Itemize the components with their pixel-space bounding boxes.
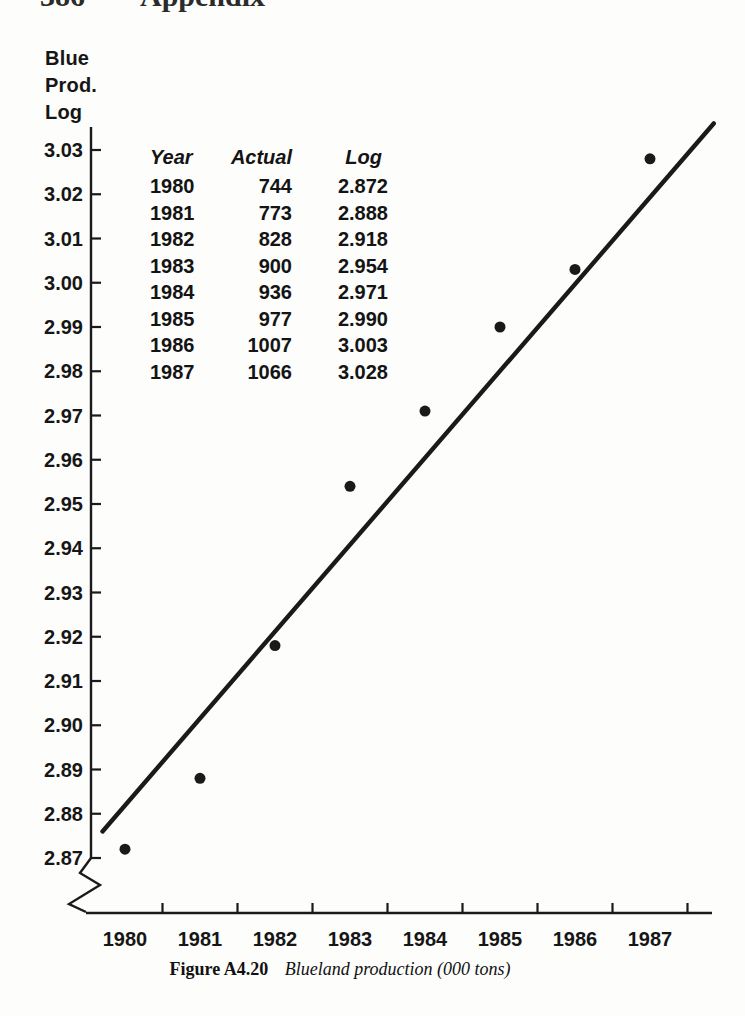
y-tick-label: 2.95	[44, 493, 83, 515]
x-year-label: 1980	[103, 928, 148, 950]
table-header-cell: Log	[292, 146, 388, 173]
y-tick-label: 2.92	[44, 626, 83, 648]
table-cell: 1066	[230, 359, 292, 386]
x-year-label: 1985	[478, 928, 523, 950]
table-cell: 1983	[150, 253, 230, 280]
table-cell: 1980	[150, 173, 230, 200]
data-point	[495, 322, 506, 333]
y-tick-label: 3.03	[44, 139, 83, 161]
table-header-row: YearActualLog	[150, 146, 388, 173]
y-tick-label: 2.87	[44, 847, 83, 869]
table-row: 19839002.954	[150, 253, 388, 280]
table-cell: 1007	[230, 332, 292, 359]
data-point	[270, 640, 281, 651]
figure-caption: Figure A4.20 Blueland production (000 to…	[60, 959, 620, 980]
table-row: 19849362.971	[150, 279, 388, 306]
table-cell: 1985	[150, 306, 230, 333]
table-cell: 2.971	[292, 279, 388, 306]
y-tick-label: 3.02	[44, 183, 83, 205]
y-tick-label: 2.91	[44, 670, 83, 692]
x-year-label: 1981	[178, 928, 223, 950]
y-tick-label: 3.01	[44, 228, 83, 250]
data-point	[420, 406, 431, 417]
figure-label: Figure A4.20	[170, 959, 269, 979]
x-year-label: 1982	[253, 928, 298, 950]
y-tick-label: 3.00	[44, 272, 83, 294]
table-cell: 2.954	[292, 253, 388, 280]
table-cell: 1981	[150, 200, 230, 227]
data-point	[570, 264, 581, 275]
data-point	[195, 773, 206, 784]
table-cell: 2.888	[292, 200, 388, 227]
table-cell: 2.990	[292, 306, 388, 333]
table-cell: 828	[230, 226, 292, 253]
table-cell: 1984	[150, 279, 230, 306]
table-cell: 1986	[150, 332, 230, 359]
table-cell: 2.918	[292, 226, 388, 253]
y-tick-label: 2.93	[44, 582, 83, 604]
data-point	[345, 481, 356, 492]
table-row: 19828282.918	[150, 226, 388, 253]
y-tick-label: 2.94	[44, 537, 84, 559]
y-tick-label: 2.89	[44, 759, 83, 781]
y-tick-label: 2.98	[44, 360, 83, 382]
table-cell: 744	[230, 173, 292, 200]
table-cell: 977	[230, 306, 292, 333]
table-cell: 900	[230, 253, 292, 280]
y-tick-label: 2.88	[44, 803, 83, 825]
y-tick-label: 2.90	[44, 714, 83, 736]
table-cell: 3.003	[292, 332, 388, 359]
figure-caption-text: Blueland production (000 tons)	[285, 959, 511, 979]
table-row: 198710663.028	[150, 359, 388, 386]
y-tick-label: 2.96	[44, 449, 83, 471]
table-row: 19807442.872	[150, 173, 388, 200]
table-row: 198610073.003	[150, 332, 388, 359]
table-cell: 2.872	[292, 173, 388, 200]
table-cell: 773	[230, 200, 292, 227]
inset-data-table: YearActualLog 19807442.87219817732.88819…	[150, 146, 388, 385]
x-year-label: 1987	[628, 928, 673, 950]
table-row: 19817732.888	[150, 200, 388, 227]
data-point	[645, 153, 656, 164]
table-cell: 936	[230, 279, 292, 306]
x-year-label: 1986	[553, 928, 598, 950]
x-year-label: 1984	[403, 928, 448, 950]
table-cell: 1982	[150, 226, 230, 253]
y-tick-label: 2.97	[44, 405, 83, 427]
y-tick-label: 2.99	[44, 316, 83, 338]
x-year-label: 1983	[328, 928, 373, 950]
table-cell: 1987	[150, 359, 230, 386]
table-header-cell: Actual	[230, 146, 292, 173]
table-row: 19859772.990	[150, 306, 388, 333]
table-header-cell: Year	[150, 146, 230, 173]
data-point	[120, 844, 131, 855]
table-cell: 3.028	[292, 359, 388, 386]
